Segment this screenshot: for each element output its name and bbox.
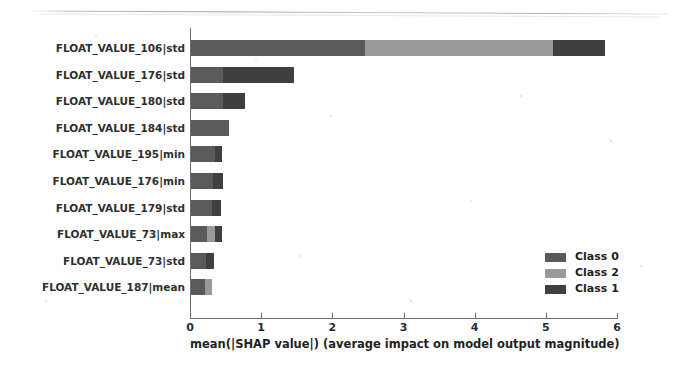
bar-segment	[212, 200, 221, 216]
legend-swatch-icon	[545, 269, 566, 278]
bar-segment	[223, 93, 245, 109]
bar-segment	[191, 200, 212, 216]
x-tick-label: 2	[317, 321, 347, 334]
bar-segment	[223, 67, 294, 83]
bar-segment	[365, 40, 553, 56]
bar-row	[191, 67, 294, 83]
x-tick-mark	[404, 313, 405, 319]
y-axis-tick-label: FLOAT_VALUE_195|min	[5, 148, 185, 160]
x-tick-label: 1	[246, 321, 276, 334]
y-axis-tick-label: FLOAT_VALUE_176|min	[5, 175, 185, 187]
legend-item[interactable]: Class 0	[545, 250, 665, 265]
scan-speckle	[640, 265, 642, 267]
bar-segment	[191, 173, 213, 189]
bar-segment	[205, 279, 212, 295]
shap-summary-bar-chart: FLOAT_VALUE_106|stdFLOAT_VALUE_176|stdFL…	[0, 0, 678, 366]
y-axis-tick-label: FLOAT_VALUE_179|std	[5, 202, 185, 214]
scan-speckle	[110, 205, 112, 207]
bar-row	[191, 93, 245, 109]
bar-row	[191, 226, 222, 242]
legend-label: Class 2	[575, 266, 619, 279]
x-tick-mark	[617, 313, 618, 319]
bar-segment	[191, 93, 223, 109]
scan-speckle	[255, 60, 257, 62]
scan-speckle	[60, 120, 62, 122]
bar-segment	[215, 226, 222, 242]
x-tick-mark	[190, 313, 191, 319]
bar-segment	[191, 253, 206, 269]
x-axis-title: mean(|SHAP value|) (average impact on mo…	[190, 337, 617, 351]
scan-speckle	[300, 255, 302, 257]
y-axis-tick-label: FLOAT_VALUE_184|std	[5, 122, 185, 134]
bar-row	[191, 173, 223, 189]
legend-swatch-icon	[545, 285, 566, 294]
y-axis-tick-label: FLOAT_VALUE_73|std	[5, 255, 185, 267]
x-tick-mark	[332, 313, 333, 319]
y-axis-tick-label: FLOAT_VALUE_187|mean	[5, 281, 185, 293]
legend-label: Class 1	[575, 282, 619, 295]
legend-item[interactable]: Class 2	[545, 266, 665, 281]
bar-segment	[191, 40, 365, 56]
y-axis-tick-label: FLOAT_VALUE_73|max	[5, 228, 185, 240]
scan-speckle	[45, 300, 47, 302]
bar-row	[191, 40, 605, 56]
y-axis-tick-label: FLOAT_VALUE_106|std	[5, 42, 185, 54]
legend-label: Class 0	[575, 250, 619, 263]
bar-row	[191, 120, 229, 136]
x-tick-label: 5	[531, 321, 561, 334]
legend-swatch-icon	[545, 253, 566, 262]
bar-row	[191, 253, 214, 269]
bar-segment	[553, 40, 606, 56]
y-axis-tick-label: FLOAT_VALUE_180|std	[5, 95, 185, 107]
x-tick-mark	[475, 313, 476, 319]
x-tick-label: 3	[389, 321, 419, 334]
chart-legend: Class 0Class 2Class 1	[545, 250, 665, 298]
bar-segment	[206, 253, 215, 269]
x-tick-label: 0	[175, 321, 205, 334]
x-tick-label: 4	[460, 321, 490, 334]
scan-speckle	[410, 300, 412, 302]
bar-row	[191, 200, 221, 216]
bar-segment	[191, 146, 215, 162]
bar-segment	[213, 173, 223, 189]
scan-speckle	[470, 200, 472, 202]
bar-row	[191, 279, 212, 295]
bar-segment	[191, 67, 223, 83]
bar-row	[191, 146, 222, 162]
x-tick-label: 6	[602, 321, 632, 334]
y-axis-tick-label: FLOAT_VALUE_176|std	[5, 69, 185, 81]
bar-segment	[191, 226, 207, 242]
legend-item[interactable]: Class 1	[545, 282, 665, 297]
bar-segment	[215, 146, 221, 162]
bar-segment	[191, 120, 229, 136]
scan-speckle	[330, 115, 332, 117]
scan-speckle	[95, 35, 97, 37]
scan-speckle	[520, 95, 522, 97]
x-tick-mark	[261, 313, 262, 319]
scan-speckle	[610, 140, 612, 142]
bar-segment	[207, 226, 216, 242]
x-tick-mark	[546, 313, 547, 319]
bar-segment	[191, 279, 205, 295]
